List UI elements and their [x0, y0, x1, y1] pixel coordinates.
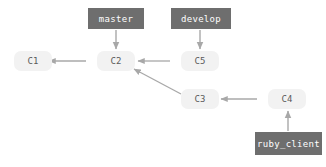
commit-node-c1-label: C1: [27, 56, 38, 66]
commit-node-c1[interactable]: C1: [14, 51, 52, 71]
ref-box-develop-label: develop: [181, 14, 221, 24]
commit-node-c2-label: C2: [110, 56, 121, 66]
commit-node-c4[interactable]: C4: [268, 89, 306, 109]
ref-box-ruby-client-label: ruby_client: [257, 139, 320, 149]
ref-box-ruby-client[interactable]: ruby_client: [255, 132, 322, 155]
commit-node-c4-label: C4: [281, 94, 292, 104]
edge-c3-to-c2: [134, 69, 181, 94]
ref-box-master[interactable]: master: [88, 8, 144, 29]
commit-node-c5-label: C5: [194, 56, 205, 66]
commit-node-c2[interactable]: C2: [97, 51, 135, 71]
commit-node-c3-label: C3: [194, 94, 205, 104]
commit-node-c3[interactable]: C3: [181, 89, 219, 109]
commit-node-c5[interactable]: C5: [181, 51, 219, 71]
ref-box-develop[interactable]: develop: [171, 8, 231, 29]
ref-box-master-label: master: [99, 14, 133, 24]
git-branch-diagram: master develop ruby_client C1 C2 C5 C3 C…: [0, 0, 326, 167]
